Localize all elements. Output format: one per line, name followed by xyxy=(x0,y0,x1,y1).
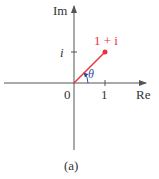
point-1-plus-i xyxy=(103,50,108,55)
x-axis-label: Re xyxy=(136,87,151,102)
origin-label: 0 xyxy=(64,87,71,102)
x-tick-label: 1 xyxy=(101,87,108,102)
angle-label: θ xyxy=(88,67,94,81)
y-axis-label: Im xyxy=(53,3,67,18)
y-tick-label: i xyxy=(60,45,64,60)
complex-plane-diagram: Im Re 0 1 i 1 + i θ (a) xyxy=(0,0,159,179)
point-label: 1 + i xyxy=(94,33,118,48)
caption: (a) xyxy=(64,158,78,173)
